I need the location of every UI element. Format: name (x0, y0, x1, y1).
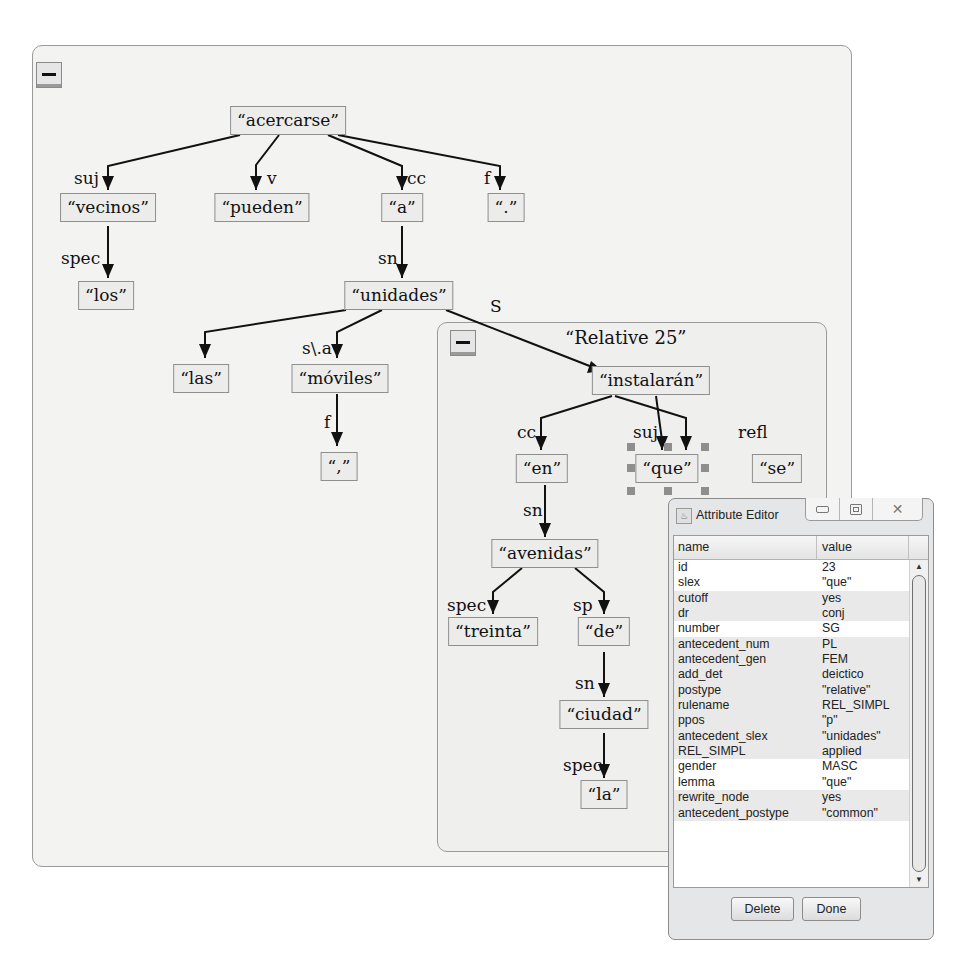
node-unidades[interactable]: “unidades” (344, 281, 453, 310)
attr-value[interactable]: PL (822, 637, 837, 652)
node-las[interactable]: “las” (173, 364, 229, 393)
attr-name: ppos (678, 713, 705, 728)
attr-value[interactable]: "relative" (822, 683, 870, 698)
minimize-button[interactable] (806, 498, 839, 520)
table-row[interactable]: ppos"p" (674, 713, 910, 728)
attr-value[interactable]: FEM (822, 652, 848, 667)
table-row[interactable]: add_detdeictico (674, 667, 910, 682)
edge-label-suj-rel: suj (633, 422, 658, 442)
table-row[interactable]: drconj (674, 606, 910, 621)
selection-handle-n[interactable] (664, 443, 672, 451)
selection-handle-se[interactable] (701, 487, 709, 495)
attr-value[interactable]: "que" (822, 575, 851, 590)
edge-label-cc-rel: cc (517, 422, 536, 442)
attr-value[interactable]: REL_SIMPL (822, 698, 890, 713)
table-row[interactable]: genderMASC (674, 759, 910, 774)
edge-label-sn-rel: sn (523, 500, 543, 520)
attr-value[interactable]: conj (822, 606, 845, 621)
scroll-up-arrow-icon[interactable]: ▲ (910, 560, 928, 574)
attr-name: postype (678, 683, 721, 698)
node-moviles[interactable]: “móviles” (292, 364, 389, 393)
attr-name: antecedent_slex (678, 729, 768, 744)
node-comma[interactable]: “,” (321, 452, 358, 481)
attr-name: REL_SIMPL (678, 744, 746, 759)
table-row[interactable]: antecedent_genFEM (674, 652, 910, 667)
attr-value[interactable]: SG (822, 621, 840, 636)
node-a[interactable]: “a” (381, 193, 423, 222)
attr-name: id (678, 560, 688, 575)
maximize-button[interactable] (839, 498, 873, 520)
table-body: id23 slex"que" cutoffyes drconj numberSG… (674, 560, 910, 821)
collapse-main-button[interactable] (36, 62, 62, 88)
table-row[interactable]: slex"que" (674, 575, 910, 590)
node-treinta[interactable]: “treinta” (448, 617, 538, 646)
selection-handle-e[interactable] (701, 464, 709, 472)
attr-name: add_det (678, 667, 722, 682)
node-que[interactable]: “que” (635, 454, 698, 483)
node-los[interactable]: “los” (78, 281, 134, 310)
selection-handle-nw[interactable] (627, 443, 635, 451)
table-row[interactable]: numberSG (674, 621, 910, 636)
table-row[interactable]: rewrite_nodeyes (674, 790, 910, 805)
column-header-value[interactable]: value (822, 540, 852, 554)
attr-value[interactable]: "p" (822, 713, 838, 728)
selection-handle-s[interactable] (664, 487, 672, 495)
edge-label-S: S (490, 296, 502, 316)
attr-value[interactable]: deictico (822, 667, 864, 682)
attr-name: antecedent_postype (678, 806, 789, 821)
node-en[interactable]: “en” (516, 454, 568, 483)
table-row[interactable]: antecedent_slex"unidades" (674, 729, 910, 744)
selection-handle-ne[interactable] (701, 443, 709, 451)
table-row[interactable]: lemma"que" (674, 775, 910, 790)
node-se[interactable]: “se” (752, 454, 802, 483)
node-la[interactable]: “la” (581, 780, 628, 809)
attribute-table: name value id23 slex"que" cutoffyes drco… (673, 535, 929, 888)
node-instalaran[interactable]: “instalarán” (592, 366, 710, 395)
attr-name: cutoff (678, 591, 708, 606)
vertical-scrollbar[interactable]: ▲ ▼ (909, 560, 928, 887)
attr-value[interactable]: "que" (822, 775, 851, 790)
attr-value[interactable]: "unidades" (822, 729, 881, 744)
edge-label-spec: spec (61, 248, 100, 268)
attr-value[interactable]: applied (822, 744, 862, 759)
node-ciudad[interactable]: “ciudad” (559, 700, 648, 729)
table-row[interactable]: antecedent_numPL (674, 637, 910, 652)
maximize-icon (850, 504, 862, 515)
node-acercarse[interactable]: “acercarse” (230, 106, 346, 135)
table-row[interactable]: postype"relative" (674, 683, 910, 698)
node-period[interactable]: “.” (488, 193, 525, 222)
dialog-titlebar[interactable]: ♨ Attribute Editor ✕ (669, 499, 933, 531)
edge-label-spec2: spec (563, 755, 602, 775)
table-row[interactable]: REL_SIMPLapplied (674, 744, 910, 759)
edge-label-spec-rel: spec (447, 595, 486, 615)
column-divider[interactable] (816, 536, 817, 559)
table-row[interactable]: cutoffyes (674, 591, 910, 606)
attr-name: number (678, 621, 720, 636)
attr-value[interactable]: yes (822, 591, 841, 606)
table-row[interactable]: rulenameREL_SIMPL (674, 698, 910, 713)
attr-name: gender (678, 759, 716, 774)
node-de[interactable]: “de” (578, 617, 630, 646)
delete-button[interactable]: Delete (731, 897, 794, 921)
collapse-relative-button[interactable] (450, 330, 476, 356)
attr-name: antecedent_gen (678, 652, 766, 667)
node-vecinos[interactable]: “vecinos” (60, 193, 156, 222)
selection-handle-w[interactable] (627, 464, 635, 472)
column-header-name[interactable]: name (678, 540, 709, 554)
attr-value[interactable]: "common" (822, 806, 878, 821)
scrollbar-thumb[interactable] (912, 575, 926, 872)
window-controls: ✕ (805, 498, 923, 521)
attr-value[interactable]: yes (822, 790, 841, 805)
done-button[interactable]: Done (802, 897, 861, 921)
close-button[interactable]: ✕ (872, 498, 922, 520)
attr-name: slex (678, 575, 700, 590)
selection-handle-sw[interactable] (627, 487, 635, 495)
attr-value[interactable]: MASC (822, 759, 858, 774)
node-pueden[interactable]: “pueden” (214, 193, 309, 222)
table-row[interactable]: id23 (674, 560, 910, 575)
scroll-down-arrow-icon[interactable]: ▼ (910, 873, 928, 887)
attr-value[interactable]: 23 (822, 560, 836, 575)
table-row[interactable]: antecedent_postype"common" (674, 806, 910, 821)
node-avenidas[interactable]: “avenidas” (491, 539, 598, 568)
attr-name: rulename (678, 698, 729, 713)
